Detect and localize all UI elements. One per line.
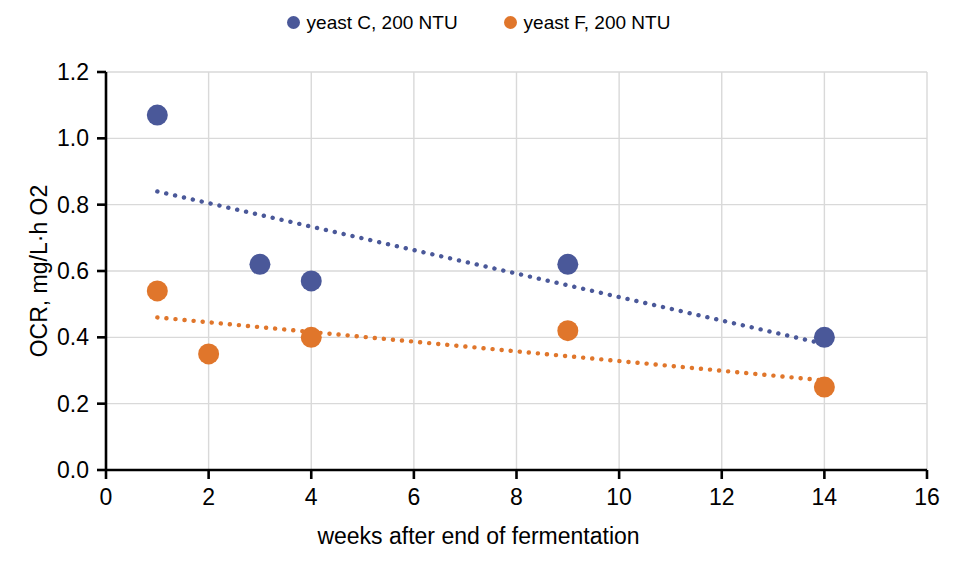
data-point-series-1[interactable] xyxy=(198,343,219,364)
x-tick-label: 4 xyxy=(305,486,318,509)
x-tick-label: 8 xyxy=(510,486,523,509)
data-point-series-0[interactable] xyxy=(814,327,835,348)
trendline-series-1 xyxy=(157,317,824,380)
x-tick-label: 2 xyxy=(202,486,215,509)
data-point-series-0[interactable] xyxy=(301,270,322,291)
y-tick-label: 1.2 xyxy=(0,61,89,84)
data-point-series-1[interactable] xyxy=(814,377,835,398)
data-point-series-1[interactable] xyxy=(147,280,168,301)
x-tick-label: 10 xyxy=(606,486,632,509)
x-tick-label: 12 xyxy=(709,486,735,509)
x-tick-label: 16 xyxy=(914,486,940,509)
data-point-series-1[interactable] xyxy=(557,320,578,341)
data-point-series-1[interactable] xyxy=(301,327,322,348)
y-tick-label: 0.4 xyxy=(0,326,89,349)
x-tick-label: 0 xyxy=(100,486,113,509)
y-tick-label: 1.0 xyxy=(0,127,89,150)
y-tick-label: 0.0 xyxy=(0,459,89,482)
y-tick-label: 0.8 xyxy=(0,193,89,216)
data-point-series-0[interactable] xyxy=(147,105,168,126)
x-tick-label: 6 xyxy=(407,486,420,509)
data-point-series-0[interactable] xyxy=(557,254,578,275)
chart-container: yeast C, 200 NTU yeast F, 200 NTU OCR, m… xyxy=(0,0,957,563)
x-axis-title: weeks after end of fermentation xyxy=(0,525,957,548)
data-point-series-0[interactable] xyxy=(249,254,270,275)
plot-area xyxy=(0,0,957,563)
y-tick-label: 0.2 xyxy=(0,392,89,415)
y-tick-label: 0.6 xyxy=(0,260,89,283)
x-tick-label: 14 xyxy=(812,486,838,509)
